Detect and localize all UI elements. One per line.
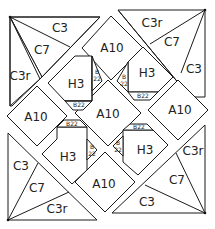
label-22: 22 [114, 146, 122, 153]
label-c7: C7 [34, 43, 50, 57]
label-c7: C7 [169, 173, 185, 187]
label-h3: H3 [139, 66, 156, 80]
label-b22: B22 [137, 92, 149, 99]
label-b: B [90, 143, 94, 150]
label-h3: H3 [137, 143, 154, 157]
label-b22: B22 [133, 123, 145, 130]
label-a10-top: A10 [100, 41, 123, 55]
label-22: 22 [93, 75, 101, 82]
label-c3r: C3r [142, 16, 163, 30]
label-c3r: C3r [47, 202, 68, 216]
quilt-block-diagram: C3 C7 C3r C3r C7 C3 C3 C7 C3r C3r C7 C3 [0, 0, 215, 229]
label-c7: C7 [164, 35, 180, 49]
label-c7: C7 [29, 181, 45, 195]
label-b: B [122, 73, 126, 80]
label-h3: H3 [60, 150, 77, 164]
label-h3: H3 [68, 77, 85, 91]
corner-dot [204, 9, 207, 12]
corner-dot [7, 219, 10, 222]
label-b22: B22 [73, 101, 85, 108]
label-b: B [116, 139, 120, 146]
label-b22: B22 [66, 120, 78, 127]
label-a10-right: A10 [168, 103, 191, 117]
label-c3r: C3r [183, 144, 204, 158]
label-22: 22 [120, 80, 128, 87]
label-a10-left: A10 [24, 110, 47, 124]
label-a10-center: A10 [96, 107, 119, 121]
corner-dot [9, 16, 12, 19]
label-c3: C3 [139, 195, 155, 209]
label-c3: C3 [186, 62, 202, 76]
label-a10-bottom: A10 [92, 177, 115, 191]
corner-dot [204, 212, 207, 215]
label-c3: C3 [13, 159, 29, 173]
label-c3: C3 [52, 21, 68, 35]
label-b: B [95, 68, 99, 75]
label-c3r: C3r [10, 69, 31, 83]
label-22: 22 [88, 150, 96, 157]
